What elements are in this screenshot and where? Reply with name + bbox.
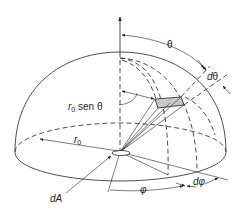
ray-2 xyxy=(120,97,181,152)
dphi-arrow-in xyxy=(176,183,185,186)
r0-label: r0 xyxy=(74,134,81,146)
latitude-arc-1 xyxy=(122,60,156,99)
dphi-arrow-out xyxy=(205,178,218,184)
dtheta-arrow-out xyxy=(223,86,230,94)
phi-ray xyxy=(120,152,228,180)
theta-arc-arrow xyxy=(122,35,204,68)
differential-area-dA xyxy=(112,151,130,156)
ray-5 xyxy=(120,103,170,152)
r0-sen-theta-arrow xyxy=(122,91,154,99)
hemisphere-solid-angle-diagram: θ dθ r0 sen θ r0 dA φ dφ xyxy=(0,0,240,212)
phi-label: φ xyxy=(140,184,147,195)
projection-line-1 xyxy=(120,152,168,175)
dA-leader-arrow xyxy=(66,156,111,193)
dtheta-ext-2 xyxy=(184,74,228,105)
hemisphere-dome xyxy=(15,52,226,152)
phi-reference-line xyxy=(108,152,120,192)
ray-4 xyxy=(120,108,158,152)
latitude-arc-2 xyxy=(185,97,215,135)
shaded-surface-patch xyxy=(155,97,184,108)
r0-sen-theta-label: r0 sen θ xyxy=(68,101,103,113)
dA-label: dA xyxy=(50,193,63,204)
theta-label: θ xyxy=(167,39,173,50)
dtheta-arrow-in xyxy=(198,60,206,70)
ray-3 xyxy=(120,105,184,152)
dphi-label: dφ xyxy=(193,176,206,187)
dtheta-label: dθ xyxy=(207,71,219,82)
r0-sen-theta-leader xyxy=(119,93,137,105)
base-ellipse-back xyxy=(15,123,226,152)
